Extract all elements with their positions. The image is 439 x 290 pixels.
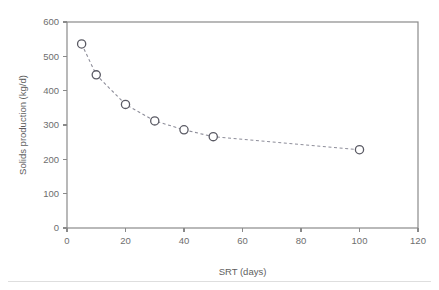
data-point-marker (180, 126, 188, 134)
data-point-marker (355, 146, 363, 154)
y-axis-tick-labels: 0100200300400500600 (43, 16, 59, 233)
y-tick-label: 400 (43, 85, 59, 96)
y-axis-title: Solids production (kg/d) (17, 75, 28, 175)
data-point-marker (121, 100, 129, 108)
x-tick-label: 80 (296, 235, 307, 246)
x-axis-ticks (67, 228, 418, 232)
x-tick-label: 0 (64, 235, 69, 246)
y-tick-label: 100 (43, 188, 59, 199)
y-tick-label: 300 (43, 119, 59, 130)
y-tick-label: 500 (43, 51, 59, 62)
y-tick-label: 200 (43, 154, 59, 165)
data-point-marker (151, 117, 159, 125)
x-tick-label: 100 (352, 235, 368, 246)
x-tick-label: 40 (179, 235, 190, 246)
plot-frame (67, 22, 418, 228)
x-tick-label: 20 (120, 235, 131, 246)
y-tick-label: 600 (43, 16, 59, 27)
x-axis-tick-labels: 020406080100120 (64, 235, 426, 246)
data-point-marker (209, 133, 217, 141)
data-point-marker (92, 71, 100, 79)
data-point-marker (78, 40, 86, 48)
x-axis-title: SRT (days) (219, 266, 267, 277)
y-tick-label: 0 (54, 222, 59, 233)
x-tick-label: 60 (237, 235, 248, 246)
x-tick-label: 120 (410, 235, 426, 246)
chart-canvas: 0100200300400500600 020406080100120 SRT … (0, 0, 439, 290)
chart-figure: 0100200300400500600 020406080100120 SRT … (0, 0, 439, 290)
